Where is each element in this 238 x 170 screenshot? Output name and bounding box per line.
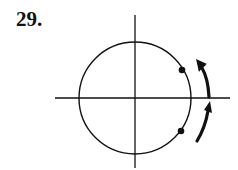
circle-diagram <box>0 0 238 170</box>
upper-point <box>179 67 186 74</box>
upper-arrow-icon <box>196 59 209 97</box>
lower-point <box>178 128 185 135</box>
lower-arrow-icon <box>197 101 212 141</box>
